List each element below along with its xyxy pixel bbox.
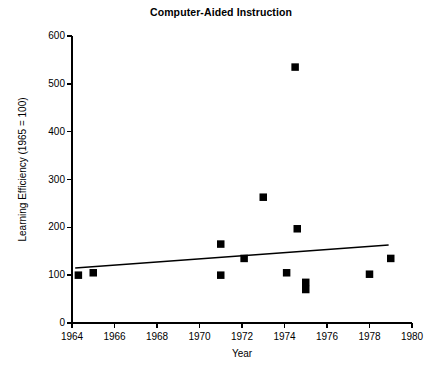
data-point (366, 270, 374, 278)
x-tick-label: 1976 (307, 332, 347, 342)
axes (67, 36, 412, 328)
x-tick-label: 1970 (180, 332, 220, 342)
x-tick-label: 1968 (137, 332, 177, 342)
data-point (217, 271, 225, 279)
plot-area (0, 0, 442, 374)
y-tick-label: 200 (31, 222, 65, 232)
x-tick-label: 1972 (222, 332, 262, 342)
data-point (294, 225, 302, 233)
trendline (75, 245, 388, 268)
y-tick-label: 100 (31, 270, 65, 280)
y-tick-label: 300 (31, 175, 65, 185)
data-point (260, 193, 268, 201)
x-tick-label: 1964 (52, 332, 92, 342)
data-points (75, 63, 395, 293)
y-tick-label: 500 (31, 79, 65, 89)
x-tick-label: 1974 (265, 332, 305, 342)
data-point (302, 286, 310, 294)
data-point (240, 255, 248, 262)
chart-container: Computer-Aided Instruction Learning Effi… (0, 0, 442, 374)
x-tick-label: 1978 (350, 332, 390, 342)
data-point (302, 279, 310, 287)
data-point (387, 255, 395, 262)
x-tick-label: 1980 (392, 332, 432, 342)
data-point (283, 269, 291, 277)
data-point (291, 63, 299, 71)
y-tick-label: 600 (31, 31, 65, 41)
data-point (90, 269, 98, 277)
data-point (75, 271, 83, 279)
y-tick-label: 400 (31, 127, 65, 137)
y-tick-label: 0 (31, 318, 65, 328)
data-point (217, 240, 225, 248)
x-tick-label: 1966 (95, 332, 135, 342)
